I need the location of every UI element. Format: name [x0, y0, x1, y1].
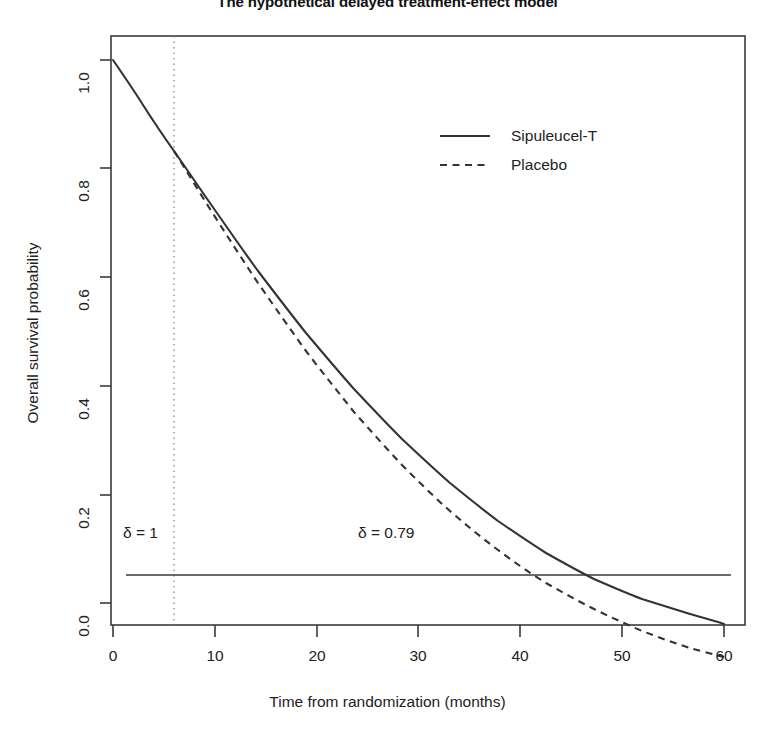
plot-box: [111, 36, 745, 625]
x-tick-label-0: 0: [109, 647, 118, 665]
legend-label-sipuleucel-t: Sipuleucel-T: [511, 127, 597, 145]
x-axis-title: Time from randomization (months): [0, 693, 775, 711]
y-tick-label-08: 0.8: [75, 168, 93, 214]
y-tick-label-04: 0.4: [75, 386, 93, 432]
x-tick-label-40: 40: [511, 647, 528, 665]
legend-line-samples: [440, 128, 500, 188]
curve-sipuleucel-t: [113, 60, 724, 624]
y-axis-title: Overall survival probability: [24, 203, 42, 463]
x-tick-label-30: 30: [409, 647, 426, 665]
curve-placebo: [174, 151, 724, 657]
survival-chart-figure: The hypothetical delayed treatment-effec…: [0, 0, 775, 741]
y-tick-label-06: 0.6: [75, 277, 93, 323]
x-tick-label-60: 60: [715, 647, 732, 665]
legend-label-placebo: Placebo: [511, 156, 567, 174]
y-tick-label-0: 0.0: [75, 603, 93, 649]
x-tick-label-20: 20: [308, 647, 325, 665]
chart-canvas: [0, 0, 775, 741]
chart-title: The hypothetical delayed treatment-effec…: [0, 0, 775, 10]
y-tick-label-1: 1.0: [75, 60, 93, 106]
annotation-delta-before: δ = 1: [123, 524, 158, 542]
x-tick-label-50: 50: [613, 647, 630, 665]
annotation-delta-after: δ = 0.79: [358, 524, 414, 542]
x-axis-ticks: [113, 625, 724, 637]
x-tick-label-10: 10: [206, 647, 223, 665]
y-tick-label-02: 0.2: [75, 495, 93, 541]
y-axis-ticks: [100, 60, 111, 603]
